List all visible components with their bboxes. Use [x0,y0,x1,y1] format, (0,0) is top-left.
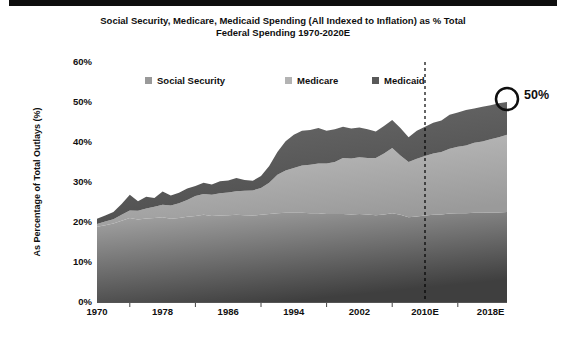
x-axis-tick-label: 1970 [75,306,119,317]
x-axis-tick-label: 1994 [272,306,316,317]
legend-item-medicare: Medicare [285,74,338,86]
endpoint-annotation-label: 50% [524,88,549,102]
x-axis-tick-label: 2010E [403,306,447,317]
x-axis-tick-label: 2018E [469,306,513,317]
legend-swatch-social-security [145,77,152,84]
legend-label-social-security: Social Security [157,75,225,86]
x-axis-tick-label: 1986 [206,306,250,317]
slide: Social Security, Medicare, Medicaid Spen… [0,0,566,355]
legend-swatch-medicare [285,77,292,84]
x-axis-tick-label: 2002 [337,306,381,317]
legend-label-medicaid: Medicaid [384,75,425,86]
legend-swatch-medicaid [372,77,379,84]
x-axis-tick-label: 1978 [141,306,185,317]
legend-item-medicaid: Medicaid [372,74,425,86]
legend-label-medicare: Medicare [297,75,338,86]
legend-item-social-security: Social Security [145,74,225,86]
area-social-security [97,212,507,302]
stacked-area-chart [0,0,566,355]
